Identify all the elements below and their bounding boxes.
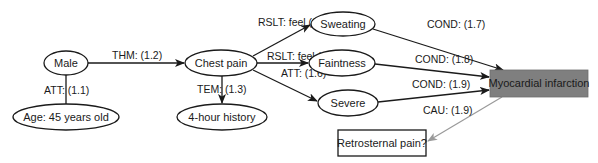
edge-label-cond-1-7: COND: (1.7)	[427, 18, 485, 30]
edge-labels: ATT: (1.1) THM: (1.2) TEM: (1.3) RSLT: f…	[44, 16, 485, 116]
node-label-4-hour-history: 4-hour history	[188, 111, 256, 123]
node-myocardial-infarction: Myocardial infarction	[489, 70, 590, 97]
node-label-myocardial-infarction: Myocardial infarction	[489, 77, 590, 89]
node-4-hour-history: 4-hour history	[177, 104, 267, 130]
node-faintness: Faintness	[309, 50, 375, 76]
node-sweating: Sweating	[311, 12, 375, 36]
edge-label-cau-1-9: CAU: (1.9)	[423, 104, 473, 116]
edge-label-cond-1-8: COND: (1.8)	[415, 53, 473, 65]
edge-label-thm-1-2: THM: (1.2)	[112, 49, 162, 61]
node-label-severe: Severe	[331, 97, 366, 109]
edge-severe-mi	[378, 90, 489, 102]
node-retrosternal-pain: Retrosternal pain?	[337, 130, 427, 156]
edge-label-att-1-1: ATT: (1.1)	[44, 84, 89, 96]
edge-faintness-mi	[375, 64, 489, 77]
node-age: Age: 45 years old	[13, 104, 119, 130]
edge-label-cond-1-9: COND: (1.9)	[412, 78, 470, 90]
node-chest-pain: Chest pain	[185, 50, 257, 76]
node-label-chest-pain: Chest pain	[195, 57, 248, 69]
node-label-male: Male	[54, 57, 78, 69]
nodes: Male Age: 45 years old Chest pain 4-hour…	[13, 12, 589, 156]
node-label-age: Age: 45 years old	[23, 111, 109, 123]
diagram-canvas: ATT: (1.1) THM: (1.2) TEM: (1.3) RSLT: f…	[0, 0, 598, 163]
node-label-faintness: Faintness	[318, 57, 366, 69]
node-label-retrosternal-pain: Retrosternal pain?	[337, 137, 427, 149]
node-label-sweating: Sweating	[320, 18, 365, 30]
node-male: Male	[44, 51, 88, 75]
edge-label-tem-1-3: TEM: (1.3)	[197, 83, 247, 95]
node-severe: Severe	[318, 90, 378, 116]
